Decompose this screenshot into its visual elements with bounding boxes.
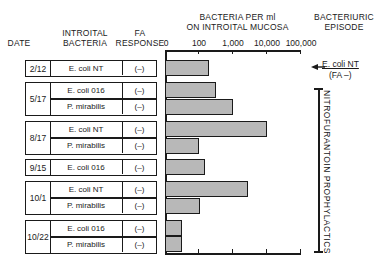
bar-5-17-ecoli-016 — [165, 82, 216, 98]
header-episode-line1: BACTERIURIC — [312, 12, 376, 22]
arrow-left-icon — [311, 64, 325, 70]
bacteria-cell: E. coli NT — [50, 61, 123, 75]
bacteria-cell: P. mirabilis — [50, 198, 123, 213]
prophylaxis-label: NITROFURANTOIN PROPHYLACTICS — [322, 90, 332, 254]
tick-bot-10000 — [266, 249, 267, 253]
fa-cell: (–) — [123, 122, 156, 137]
bar-10-22-ecoli-016 — [165, 220, 182, 236]
chart-title-line1: BACTERIA PER ml — [175, 12, 300, 22]
group-10-1: 10/1 E. coli NT (–) P. mirabilis (–) — [25, 181, 157, 215]
bacteria-cell: E. coli 016 — [50, 160, 123, 174]
tick-bot-1000 — [232, 249, 233, 253]
episode-label: E. coli NT — [322, 59, 359, 69]
tick-label-100: 100 — [192, 38, 206, 48]
fa-cell: (–) — [123, 221, 156, 236]
header-bacteria-line1: INTROITAL — [50, 28, 120, 38]
episode-sublabel: (FA –) — [329, 70, 352, 80]
date-cell: 8/17 — [26, 122, 51, 154]
x-axis-bottom — [165, 253, 301, 255]
bacteria-cell: P. mirabilis — [50, 237, 123, 252]
fa-cell: (–) — [123, 237, 156, 252]
header-fa-line2: RESPONSE — [115, 38, 165, 48]
group-2-12: 2/12 E. coli NT (–) — [25, 60, 157, 77]
group-8-17: 8/17 E. coli NT (–) P. mirabilis (–) — [25, 121, 157, 155]
date-cell: 2/12 — [26, 61, 51, 76]
tick-top-100000 — [300, 50, 301, 54]
bar-5-17-p-mirabilis — [165, 99, 233, 115]
prophylaxis-bracket — [318, 88, 320, 252]
bacteria-cell: E. coli 016 — [50, 221, 123, 236]
bar-8-17-ecoli-nt — [165, 121, 267, 137]
bar-8-17-p-mirabilis — [165, 138, 199, 154]
group-9-15: 9/15 E. coli 016 (–) — [25, 159, 157, 176]
bacteria-cell: E. coli NT — [50, 182, 123, 197]
bar-10-1-p-mirabilis — [165, 198, 200, 214]
header-episode: BACTERIURIC EPISODE — [312, 12, 376, 32]
tick-label-1000: 1,000 — [222, 38, 243, 48]
header-date: DATE — [2, 38, 36, 48]
tick-label-10000: 10,000 — [254, 38, 280, 48]
tick-bot-100000 — [300, 249, 301, 253]
fa-cell: (–) — [123, 61, 156, 75]
header-fa: FA RESPONSE — [115, 28, 165, 48]
bar-10-1-ecoli-nt — [165, 181, 248, 197]
bacteria-cell: P. mirabilis — [50, 138, 123, 153]
fa-cell: (–) — [123, 99, 156, 114]
group-5-17: 5/17 E. coli 016 (–) P. mirabilis (–) — [25, 82, 157, 116]
chart-title-line2: ON INTROITAL MUCOSA — [175, 22, 300, 32]
tick-top-1000 — [232, 50, 233, 54]
header-bacteria-line2: BACTERIA — [50, 38, 120, 48]
header-fa-line1: FA — [115, 28, 165, 38]
date-cell: 5/17 — [26, 83, 51, 115]
header-bacteria: INTROITAL BACTERIA — [50, 28, 120, 48]
bar-10-22-p-mirabilis — [165, 236, 182, 252]
tick-top-10000 — [266, 50, 267, 54]
fa-cell: (–) — [123, 138, 156, 153]
bacteria-cell: P. mirabilis — [50, 99, 123, 114]
fa-cell: (–) — [123, 160, 156, 174]
bar-2-12-ecoli-nt — [165, 60, 209, 76]
date-cell: 10/1 — [26, 182, 51, 214]
bacteria-cell: E. coli 016 — [50, 83, 123, 98]
tick-top-100 — [198, 50, 199, 54]
bacteria-cell: E. coli NT — [50, 122, 123, 137]
tick-bot-100 — [198, 249, 199, 253]
fa-cell: (–) — [123, 198, 156, 213]
fa-cell: (–) — [123, 83, 156, 98]
date-cell: 10/22 — [26, 221, 51, 253]
tick-label-0: 0 — [164, 38, 169, 48]
fa-cell: (–) — [123, 182, 156, 197]
group-10-22: 10/22 E. coli 016 (–) P. mirabilis (–) — [25, 220, 157, 254]
header-episode-line2: EPISODE — [312, 22, 376, 32]
header-chart: BACTERIA PER ml ON INTROITAL MUCOSA — [175, 12, 300, 32]
tick-label-100000: 100,000 — [286, 38, 317, 48]
bar-9-15-ecoli-016 — [165, 159, 205, 175]
date-cell: 9/15 — [26, 160, 51, 175]
